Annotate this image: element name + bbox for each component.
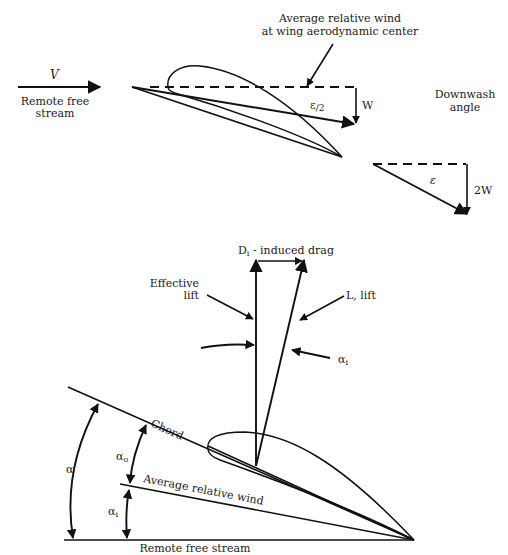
alpha-i-label: αi: [108, 505, 118, 519]
induced-drag-label: Di - induced drag: [238, 244, 334, 258]
alpha-i-right-arrow: [292, 350, 330, 358]
alpha-o-label: αo: [116, 450, 128, 464]
remote-free-stream-label: Remote free stream: [140, 542, 252, 555]
bottom-diagram: Remote free stream Chord Average relativ…: [64, 244, 414, 555]
effective-lift-callout-arrow: [207, 295, 253, 319]
w-label: W: [362, 99, 374, 112]
chord-label: Chord: [149, 417, 186, 443]
effective-lift-label-2: lift: [183, 289, 199, 302]
induced-drag-diagram: V Remote free stream W ε/2 Average relat…: [0, 0, 508, 555]
alpha-label: α: [66, 463, 74, 476]
two-w-label: 2W: [474, 184, 493, 197]
downwash-resultant-arrow: [373, 164, 467, 214]
alpha-i-top-label: αi: [338, 353, 348, 367]
avg-wind-label-1: Average relative wind: [278, 12, 401, 25]
lift-label: L, lift: [346, 289, 376, 302]
lift-arrow: [256, 260, 304, 466]
remote-free-stream-label-2: stream: [36, 107, 75, 120]
epsilon-half-label: ε/2: [310, 99, 324, 113]
velocity-label: V: [50, 68, 60, 82]
alpha-i-left-arrow: [201, 344, 254, 348]
downwash-label-2: angle: [450, 101, 481, 114]
alpha-arc: [70, 404, 98, 538]
airfoil-bottom: [208, 432, 414, 540]
avg-wind-label-2: at wing aerodynamic center: [262, 25, 419, 38]
alpha-i-arc: [126, 490, 129, 538]
lift-callout-arrow: [300, 296, 344, 320]
avg-wind-callout-arrow: [307, 44, 333, 86]
epsilon-label: ε: [430, 174, 436, 187]
downwash-label-1: Downwash: [435, 88, 496, 101]
top-diagram: V Remote free stream W ε/2 Average relat…: [18, 12, 495, 214]
average-relative-wind-label: Average relative wind: [141, 472, 264, 508]
chord-line-top: [132, 87, 342, 157]
average-relative-wind-line: [120, 484, 414, 540]
